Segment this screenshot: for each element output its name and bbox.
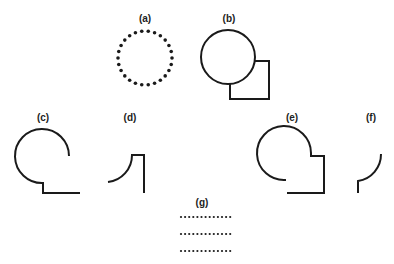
dot	[146, 83, 150, 87]
dot	[153, 31, 157, 35]
dot	[116, 56, 120, 60]
dot	[163, 74, 167, 78]
figure-canvas: (a) (b) (c) (d) (e) (f) (g)	[0, 0, 394, 264]
dot	[134, 81, 138, 85]
dotted-circle	[116, 29, 174, 86]
dot-rows	[180, 216, 231, 252]
dot	[169, 63, 173, 67]
dot	[117, 63, 121, 67]
dot	[192, 250, 194, 252]
panel-c: (c)	[15, 112, 80, 193]
dot	[119, 44, 123, 48]
dot	[134, 31, 138, 35]
dot	[225, 250, 227, 252]
dot	[153, 81, 157, 85]
dot	[221, 250, 223, 252]
dot	[196, 216, 198, 218]
arc-fragment-shape	[358, 154, 381, 193]
panel-e-label: (e)	[286, 112, 298, 123]
panel-f: (f)	[358, 112, 381, 193]
dot	[200, 250, 202, 252]
dot	[196, 250, 198, 252]
panel-g: (g)	[180, 197, 231, 252]
dot	[217, 216, 219, 218]
dot	[169, 50, 173, 54]
circle-shape	[201, 30, 255, 84]
dot	[188, 216, 190, 218]
dot	[213, 250, 215, 252]
dot	[188, 250, 190, 252]
dot	[119, 69, 123, 73]
dot	[209, 216, 211, 218]
dot	[205, 233, 207, 235]
dot	[123, 74, 127, 78]
dot	[146, 29, 150, 33]
dot	[209, 250, 211, 252]
dot	[167, 69, 171, 73]
arc-square-shape	[257, 126, 324, 193]
dot	[221, 233, 223, 235]
dot	[221, 216, 223, 218]
panel-e: (e)	[257, 112, 324, 193]
dot	[200, 233, 202, 235]
dot	[225, 233, 227, 235]
dot	[213, 233, 215, 235]
dot	[140, 83, 144, 87]
dot	[180, 250, 182, 252]
dot	[128, 34, 132, 38]
dot	[167, 44, 171, 48]
arc-corner-shape	[108, 155, 144, 193]
dot	[229, 233, 231, 235]
dot	[159, 34, 163, 38]
dot	[209, 233, 211, 235]
dot	[180, 216, 182, 218]
arc-step-shape	[15, 129, 80, 193]
dot	[184, 216, 186, 218]
dot	[225, 216, 227, 218]
panel-b: (b)	[201, 13, 269, 99]
panel-d-label: (d)	[124, 112, 137, 123]
dot	[117, 50, 121, 54]
dot	[205, 216, 207, 218]
square-shape	[230, 61, 269, 99]
panel-a: (a)	[116, 13, 174, 87]
dot	[192, 233, 194, 235]
dot	[192, 216, 194, 218]
dot	[128, 78, 132, 82]
dot	[163, 38, 167, 42]
dot	[229, 216, 231, 218]
dot	[123, 38, 127, 42]
dot	[140, 29, 144, 33]
dot	[213, 216, 215, 218]
dot	[180, 233, 182, 235]
dot	[196, 233, 198, 235]
panel-a-label: (a)	[139, 13, 151, 24]
dot	[217, 233, 219, 235]
dot	[200, 216, 202, 218]
panel-f-label: (f)	[366, 112, 376, 123]
panel-c-label: (c)	[37, 112, 49, 123]
dot	[170, 56, 174, 60]
dot	[188, 233, 190, 235]
dot	[159, 78, 163, 82]
dot	[184, 250, 186, 252]
panel-d: (d)	[108, 112, 144, 193]
dot	[205, 250, 207, 252]
dot	[184, 233, 186, 235]
panel-b-label: (b)	[223, 13, 236, 24]
dot	[229, 250, 231, 252]
dot	[217, 250, 219, 252]
panel-g-label: (g)	[196, 197, 209, 208]
